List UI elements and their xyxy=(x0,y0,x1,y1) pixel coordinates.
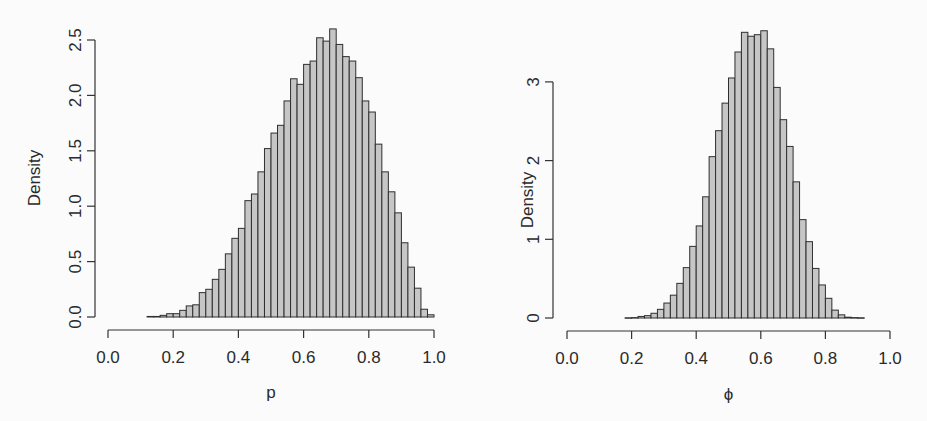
histogram-bar xyxy=(147,316,154,317)
histogram-bar xyxy=(219,269,226,317)
histogram-bar xyxy=(304,64,311,317)
histogram-bar xyxy=(421,309,428,317)
histogram-bar xyxy=(186,306,193,317)
histogram-bar xyxy=(382,172,389,317)
histogram-bar xyxy=(264,149,271,317)
y-tick-label: 0.0 xyxy=(66,305,85,329)
histogram-bar xyxy=(414,288,421,317)
histogram-bar xyxy=(780,120,786,318)
histogram-bar xyxy=(703,197,709,318)
y-tick-label: 1.0 xyxy=(66,194,85,218)
histogram-bar xyxy=(167,314,174,317)
x-axis: 0.00.20.40.60.81.0ϕ xyxy=(555,331,902,404)
histogram-bar xyxy=(336,44,343,317)
x-tick-label: 0.8 xyxy=(814,349,838,368)
y-axis-title: Density xyxy=(518,171,537,228)
histogram-bar xyxy=(251,194,258,317)
histogram-bar xyxy=(271,133,278,317)
histogram-bar xyxy=(199,293,206,317)
histogram-bar xyxy=(709,157,715,318)
histogram-bar xyxy=(408,267,415,317)
histogram-bar xyxy=(330,29,337,317)
histogram-bar xyxy=(651,313,657,318)
y-axis: 0.00.51.01.52.02.5Density xyxy=(25,28,95,329)
histogram-bar xyxy=(154,316,161,317)
histogram-bar xyxy=(310,61,317,317)
histogram-bar xyxy=(819,285,825,318)
x-axis-title: p xyxy=(266,383,275,402)
histogram-bar xyxy=(690,246,696,318)
histogram-bar xyxy=(729,78,735,318)
histogram-bar xyxy=(787,146,793,318)
histogram-bar xyxy=(212,279,219,317)
y-tick-label: 0.5 xyxy=(66,250,85,274)
histogram-bar xyxy=(832,310,838,318)
histogram-bar xyxy=(258,172,265,317)
histogram-p-panel: 0.00.20.40.60.81.0p0.00.51.01.52.02.5Den… xyxy=(25,28,446,402)
x-axis-title: ϕ xyxy=(724,385,734,404)
y-tick-label: 2 xyxy=(524,156,543,165)
histogram-bar xyxy=(375,144,382,317)
y-axis-title: Density xyxy=(25,149,44,206)
x-tick-label: 0.0 xyxy=(555,349,579,368)
bars xyxy=(147,29,434,317)
histogram-bar xyxy=(767,49,773,318)
histogram-bar xyxy=(284,101,291,317)
histogram-phi-panel: 0.00.20.40.60.81.0ϕ0123Density xyxy=(518,31,902,404)
histogram-bar xyxy=(297,84,304,317)
histogram-bar xyxy=(761,31,767,318)
histogram-bar xyxy=(735,52,741,318)
histogram-bar xyxy=(851,318,857,319)
x-tick-label: 0.4 xyxy=(227,348,251,367)
histogram-bar xyxy=(232,238,239,317)
histogram-bar xyxy=(696,226,702,318)
y-tick-label: 1 xyxy=(524,235,543,244)
y-tick-label: 3 xyxy=(524,77,543,86)
histogram-bar xyxy=(160,315,167,317)
histogram-bar xyxy=(356,78,363,317)
histogram-bar xyxy=(645,316,651,318)
histogram-bar xyxy=(395,213,402,317)
histogram-bar xyxy=(206,289,213,317)
x-tick-label: 0.6 xyxy=(292,348,316,367)
x-tick-label: 0.0 xyxy=(96,348,120,367)
x-tick-label: 0.8 xyxy=(357,348,381,367)
histogram-bar xyxy=(748,36,754,318)
histogram-bar xyxy=(180,310,187,317)
histogram-bar xyxy=(291,79,298,317)
histogram-bar xyxy=(173,314,180,317)
x-tick-label: 0.6 xyxy=(749,349,773,368)
histogram-bar xyxy=(741,32,747,318)
histogram-bar xyxy=(716,131,722,318)
histogram-bar xyxy=(401,243,408,317)
histogram-bar xyxy=(845,317,851,318)
x-tick-label: 1.0 xyxy=(422,348,446,367)
histogram-bar xyxy=(664,303,670,318)
histogram-bar xyxy=(793,182,799,318)
histogram-bar xyxy=(812,268,818,318)
histogram-bar xyxy=(278,125,285,317)
histogram-bar xyxy=(317,38,324,317)
histogram-bar xyxy=(838,315,844,318)
bars xyxy=(625,31,864,319)
y-tick-label: 2.5 xyxy=(66,28,85,52)
y-tick-label: 1.5 xyxy=(66,139,85,163)
histogram-bar xyxy=(754,35,760,318)
x-tick-label: 1.0 xyxy=(878,349,902,368)
histogram-bar xyxy=(774,87,780,318)
histogram-bar xyxy=(858,318,864,319)
histogram-bar xyxy=(800,220,806,318)
x-tick-label: 0.4 xyxy=(684,349,708,368)
histogram-bar xyxy=(683,268,689,318)
y-axis: 0123Density xyxy=(518,77,553,323)
histogram-bar xyxy=(806,242,812,318)
y-tick-label: 2.0 xyxy=(66,84,85,108)
histogram-bar xyxy=(343,57,350,317)
figure: 0.00.20.40.60.81.0p0.00.51.01.52.02.5Den… xyxy=(0,0,927,421)
histogram-bar xyxy=(657,309,663,318)
y-tick-label: 0 xyxy=(524,313,543,322)
histogram-bar xyxy=(238,228,245,317)
histogram-bar xyxy=(362,101,369,317)
x-axis: 0.00.20.40.60.81.0p xyxy=(96,330,446,402)
histogram-bar xyxy=(225,254,232,317)
